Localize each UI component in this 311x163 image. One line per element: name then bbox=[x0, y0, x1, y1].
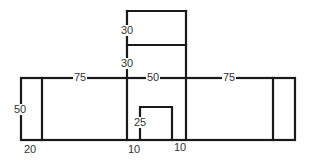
main-body-outline bbox=[21, 78, 295, 140]
side-bay-width-label: 20 bbox=[23, 144, 37, 155]
center-width-label: 50 bbox=[146, 72, 160, 83]
door-right-offset-label: 10 bbox=[173, 142, 187, 153]
left-wing-width-label: 75 bbox=[73, 72, 87, 83]
right-wing-width-label: 75 bbox=[222, 72, 236, 83]
tower-upper-height-label: 30 bbox=[120, 25, 134, 36]
tower-lower-height-label: 30 bbox=[120, 58, 134, 69]
door-left-offset-label: 10 bbox=[127, 144, 141, 155]
door-height-label: 25 bbox=[133, 117, 147, 128]
wall-height-label: 50 bbox=[13, 104, 27, 115]
